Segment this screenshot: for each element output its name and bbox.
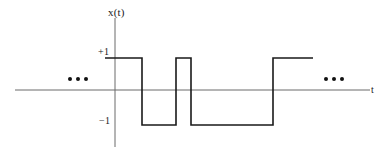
ellipsis-dot [332, 77, 336, 81]
continuation-ellipsis-right [324, 77, 344, 81]
ellipsis-dot [68, 77, 72, 81]
amplitude-low-tick-label: −1 [99, 116, 110, 126]
ellipsis-dot [340, 77, 344, 81]
ellipsis-dot [324, 77, 328, 81]
ellipsis-dot [76, 77, 80, 81]
signal-name-label: x(t) [108, 7, 125, 18]
signal-waveform-trace [105, 58, 313, 125]
figure-canvas: x(t) +1 −1 t [0, 0, 391, 160]
amplitude-high-tick-label: +1 [98, 47, 109, 57]
ellipsis-dot [84, 77, 88, 81]
time-axis-label: t [371, 85, 374, 95]
continuation-ellipsis-left [68, 77, 88, 81]
